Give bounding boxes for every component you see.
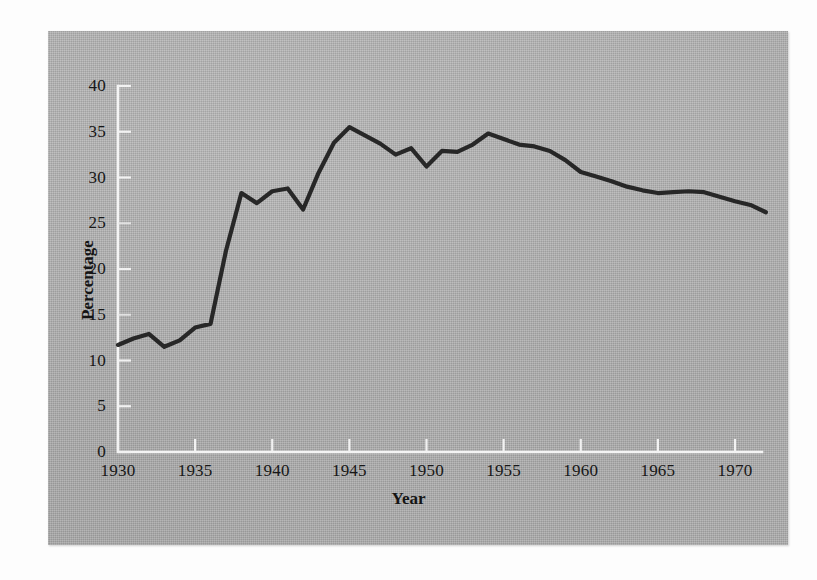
y-tick-label: 35 (52, 122, 106, 142)
x-tick-label: 1970 (718, 461, 753, 481)
y-tick-label: 10 (52, 351, 106, 371)
y-tick-label: 25 (52, 213, 106, 233)
scanned-page: 0510152025303540 19301935194019451950195… (0, 0, 817, 580)
y-tick-label: 30 (52, 168, 106, 188)
x-tick-label: 1955 (486, 461, 521, 481)
x-tick-label: 1940 (255, 461, 290, 481)
x-axis-title: Year (0, 489, 817, 509)
x-tick-label: 1965 (640, 461, 675, 481)
y-tick-label: 0 (52, 442, 106, 462)
y-tick-label: 40 (52, 76, 106, 96)
x-tick-label: 1950 (409, 461, 444, 481)
x-tick-label: 1935 (178, 461, 213, 481)
y-tick-label: 5 (52, 396, 106, 416)
y-axis-title: Percentage (78, 240, 98, 320)
x-tick-label: 1960 (563, 461, 598, 481)
x-tick-label: 1930 (101, 461, 136, 481)
x-tick-label: 1945 (332, 461, 367, 481)
